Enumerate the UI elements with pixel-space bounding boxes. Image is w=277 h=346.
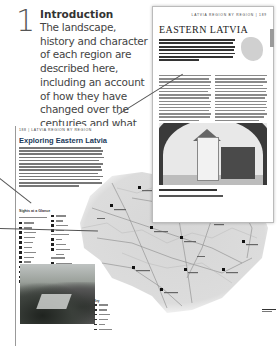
left-running-header: 188 | LATVIA REGION BY REGION	[19, 128, 92, 132]
legend-title: Sights at a Glance	[19, 209, 50, 213]
photo-caption	[159, 189, 217, 191]
map-key: Key	[94, 299, 112, 332]
region-locator-map	[241, 37, 263, 61]
photo-caption-secondary	[159, 195, 223, 197]
map-scale-bar	[262, 309, 276, 312]
church-gateway-photo	[159, 123, 267, 185]
section-color-tab	[270, 29, 274, 47]
right-running-header: LATVIA REGION BY REGION | 189	[192, 13, 267, 17]
right-page-lead-text	[159, 39, 235, 63]
left-page-title: Exploring Eastern Latvia	[19, 136, 107, 145]
right-page-column-2	[215, 75, 267, 123]
right-page: LATVIA REGION BY REGION | 189 EASTERN LA…	[152, 6, 274, 223]
callout-title: Introduction	[40, 8, 113, 20]
callout-number: 1	[16, 6, 35, 36]
right-page-title: EASTERN LATVIA	[159, 24, 248, 35]
